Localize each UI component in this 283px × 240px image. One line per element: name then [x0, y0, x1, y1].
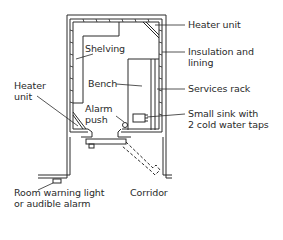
- sink: [133, 114, 145, 122]
- shelving: [73, 22, 119, 103]
- label-sink-line1: Small sink with: [188, 109, 258, 120]
- label-services-rack: Services rack: [188, 84, 250, 95]
- label-insulation-line1: Insulation and: [188, 47, 254, 58]
- door-swing: [122, 142, 160, 175]
- label-heater-unit-left-line2: unit: [14, 92, 32, 103]
- label-corridor: Corridor: [130, 188, 168, 199]
- corridor-wall-left: [38, 137, 67, 178]
- label-alarm-line1: Alarm: [85, 104, 112, 115]
- room-warning-light: [53, 179, 61, 183]
- corridor-wall-right: [166, 137, 172, 178]
- door-threshold: [86, 139, 126, 144]
- label-room-warning-line2: or audible alarm: [14, 199, 90, 210]
- label-sink-line2: 2 cold water taps: [188, 120, 269, 131]
- label-heater-unit-top: Heater unit: [188, 20, 241, 31]
- label-shelving: Shelving: [85, 44, 125, 55]
- label-room-warning-line1: Room warning light: [14, 188, 104, 199]
- services-rack: [151, 59, 159, 130]
- alarm-push: [123, 123, 128, 128]
- label-alarm-line2: push: [85, 115, 108, 126]
- label-insulation-line2: lining: [188, 58, 213, 69]
- heater-unit-top: [143, 22, 159, 38]
- bench: [128, 59, 151, 130]
- label-bench: Bench: [88, 79, 117, 90]
- label-heater-unit-left-line1: Heater: [14, 81, 46, 92]
